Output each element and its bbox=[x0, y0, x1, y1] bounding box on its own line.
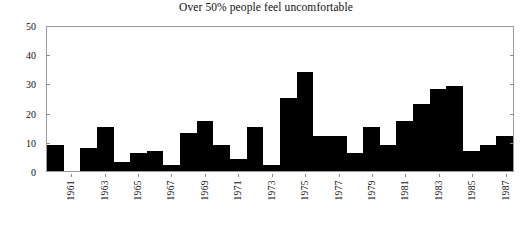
bar bbox=[463, 151, 480, 171]
x-tick-mark bbox=[105, 174, 106, 177]
bar bbox=[430, 89, 447, 171]
bar bbox=[213, 145, 230, 171]
x-tick-label: 1981 bbox=[400, 180, 410, 201]
x-tick-label: 1979 bbox=[367, 180, 377, 201]
bar bbox=[446, 86, 463, 171]
x-tick-mark bbox=[171, 174, 172, 177]
bar bbox=[97, 127, 114, 171]
bar bbox=[363, 127, 380, 171]
bar bbox=[263, 165, 280, 171]
x-tick-label: 1983 bbox=[434, 180, 444, 201]
x-tick-mark bbox=[305, 174, 306, 177]
x-tick-label: 1961 bbox=[66, 180, 76, 201]
bar bbox=[147, 151, 164, 171]
x-tick-label: 1987 bbox=[501, 180, 511, 201]
x-tick-mark bbox=[506, 174, 507, 177]
bar bbox=[313, 136, 330, 171]
x-tick-label: 1969 bbox=[200, 180, 210, 201]
x-tick-mark bbox=[439, 174, 440, 177]
x-tick-mark bbox=[372, 174, 373, 177]
x-tick-label: 1967 bbox=[166, 180, 176, 201]
bar bbox=[480, 145, 497, 171]
bar bbox=[280, 98, 297, 171]
bar bbox=[197, 121, 214, 171]
bar bbox=[297, 72, 314, 171]
y-tick-label: 50 bbox=[26, 21, 36, 32]
x-tick-mark bbox=[472, 174, 473, 177]
bar-series bbox=[47, 27, 513, 171]
x-tick-label: 1975 bbox=[300, 180, 310, 201]
x-tick-label: 1985 bbox=[467, 180, 477, 201]
bar bbox=[230, 159, 247, 171]
x-tick-mark bbox=[405, 174, 406, 177]
bar bbox=[180, 133, 197, 171]
y-tick-label: 40 bbox=[26, 50, 36, 61]
y-tick-label: 20 bbox=[26, 108, 36, 119]
bar bbox=[130, 153, 147, 171]
x-axis: 1961196319651967196919711973197519771979… bbox=[46, 174, 514, 224]
chart-figure: Over 50% people feel uncomfortable 01020… bbox=[0, 0, 532, 225]
y-tick-label: 10 bbox=[26, 137, 36, 148]
bar bbox=[247, 127, 264, 171]
y-tick-label: 0 bbox=[31, 167, 36, 178]
x-tick-mark bbox=[339, 174, 340, 177]
bar bbox=[380, 145, 397, 171]
y-tick-label: 30 bbox=[26, 79, 36, 90]
bar bbox=[163, 165, 180, 171]
x-tick-mark bbox=[238, 174, 239, 177]
x-tick-mark bbox=[205, 174, 206, 177]
bar bbox=[413, 104, 430, 171]
bar bbox=[347, 153, 364, 171]
x-tick-mark bbox=[138, 174, 139, 177]
x-tick-mark bbox=[272, 174, 273, 177]
bar bbox=[47, 145, 64, 171]
x-tick-label: 1965 bbox=[133, 180, 143, 201]
x-tick-label: 1973 bbox=[267, 180, 277, 201]
y-axis: 01020304050 bbox=[0, 26, 42, 172]
x-tick-label: 1971 bbox=[233, 180, 243, 201]
bar bbox=[330, 136, 347, 171]
x-tick-label: 1963 bbox=[100, 180, 110, 201]
bar bbox=[396, 121, 413, 171]
x-tick-label: 1977 bbox=[334, 180, 344, 201]
chart-title: Over 50% people feel uncomfortable bbox=[0, 1, 532, 13]
bar bbox=[114, 162, 131, 171]
plot-area bbox=[46, 26, 514, 172]
bar bbox=[496, 136, 513, 171]
x-tick-mark bbox=[71, 174, 72, 177]
bar bbox=[80, 148, 97, 171]
